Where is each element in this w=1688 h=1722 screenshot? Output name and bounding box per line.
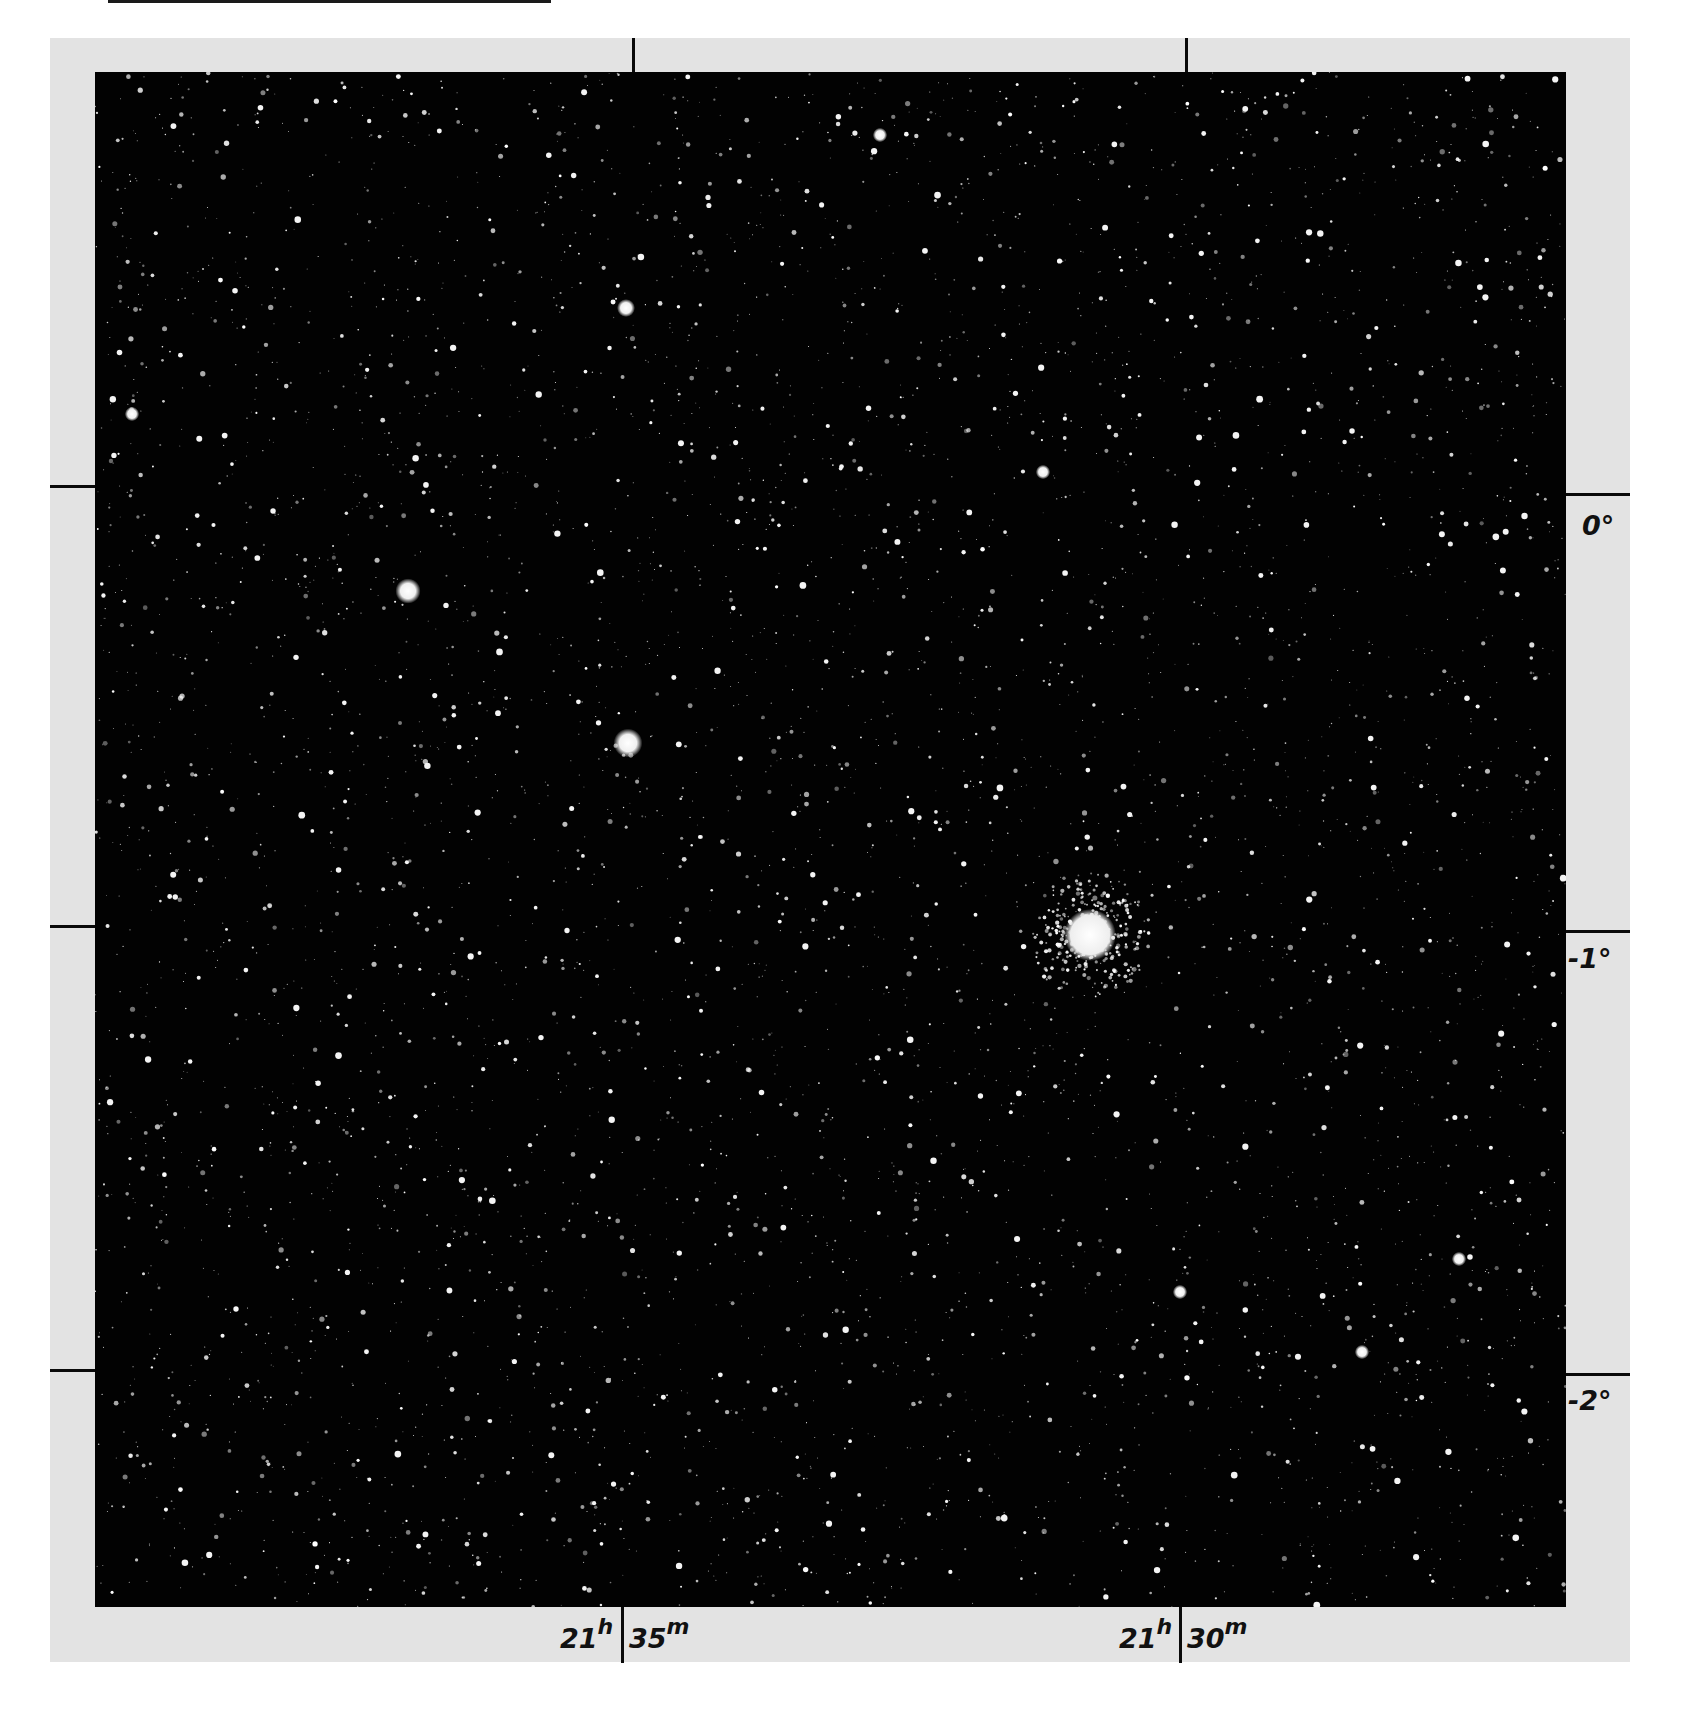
dec-label-minus1: -1° xyxy=(1568,943,1612,974)
star-field-canvas xyxy=(95,72,1566,1607)
dec-label-minus2: -2° xyxy=(1568,1385,1612,1416)
dec-tick-right-2 xyxy=(1566,1373,1630,1376)
ra-label-21h35m-minutes: 35m xyxy=(629,1618,690,1654)
ra-tick-bottom-30m xyxy=(1179,1607,1182,1663)
ra-label-21h30m-minutes: 30m xyxy=(1187,1618,1248,1654)
ra-label-21h30m-hours: 21h xyxy=(1119,1618,1172,1654)
star-field-plate xyxy=(95,72,1566,1607)
dec-tick-left-1 xyxy=(50,925,95,928)
ra-minutes: 30 xyxy=(1187,1623,1225,1654)
ra-tick-top-30m xyxy=(1185,38,1188,72)
ra-hours-unit: h xyxy=(1157,1614,1173,1639)
ra-tick-top-35m xyxy=(632,38,635,72)
ra-minutes: 35 xyxy=(629,1623,667,1654)
top-rule xyxy=(108,0,551,3)
dec-label-0: 0° xyxy=(1582,510,1614,541)
ra-minutes-unit: m xyxy=(1225,1614,1248,1639)
ra-minutes-unit: m xyxy=(667,1614,690,1639)
ra-hours: 21 xyxy=(560,1623,598,1654)
ra-tick-bottom-35m xyxy=(621,1607,624,1663)
ra-label-21h35m-hours: 21h xyxy=(560,1618,613,1654)
dec-tick-left-2 xyxy=(50,1369,95,1372)
dec-tick-right-1 xyxy=(1566,930,1630,933)
dec-tick-right-0 xyxy=(1566,493,1630,496)
ra-hours: 21 xyxy=(1119,1623,1157,1654)
dec-tick-left-0 xyxy=(50,485,95,488)
ra-hours-unit: h xyxy=(598,1614,614,1639)
